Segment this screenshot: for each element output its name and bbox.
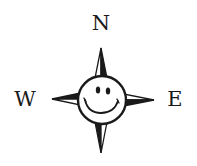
smiley-face-icon	[78, 76, 126, 124]
south-point-icon	[95, 122, 107, 153]
east-label: E	[160, 89, 190, 110]
east-point-icon	[124, 94, 154, 106]
west-point-icon	[52, 93, 80, 105]
compass-rose: N W E	[0, 0, 197, 166]
west-label: W	[10, 89, 40, 110]
north-label: N	[86, 13, 116, 34]
north-point-icon	[95, 48, 107, 78]
